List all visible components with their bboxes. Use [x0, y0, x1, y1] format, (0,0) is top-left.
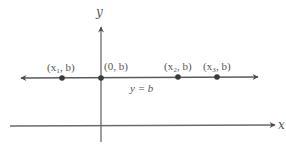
point-label-x2-b: (x₂, b) [164, 60, 192, 73]
point-x3-b [214, 74, 220, 80]
horizontal-line-y-equals-b [21, 77, 258, 78]
point-x1-b [59, 75, 65, 81]
x-axis-label: x [278, 118, 285, 132]
point-x2-b [175, 74, 181, 80]
point-0-b [98, 75, 104, 81]
equation-label: y = b [129, 82, 154, 94]
x-axis [10, 125, 275, 126]
point-label-x1-b: (x₁, b) [47, 61, 75, 74]
y-axis-label: y [95, 5, 103, 19]
point-label-0-b: (0, b) [104, 60, 128, 73]
coordinate-diagram: x y (x₁, b) (0, b) (x₂, b) (x₃, b) y = b [0, 0, 286, 151]
point-label-x3-b: (x₃, b) [203, 60, 231, 73]
